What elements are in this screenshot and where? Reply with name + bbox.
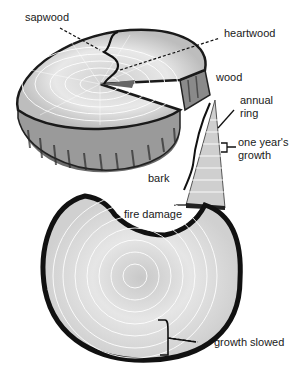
tree-ring-diagram: sapwood heartwood wood annual ring one y…	[0, 0, 303, 382]
label-heartwood: heartwood	[224, 27, 275, 39]
label-one-years-growth-line1: one year's	[238, 136, 289, 148]
log-cylinder	[17, 30, 210, 173]
label-annual-ring-line2: ring	[240, 107, 258, 119]
label-growth-slowed: growth slowed	[214, 336, 284, 348]
label-fire-damage: fire damage	[124, 208, 182, 220]
label-annual-ring-line1: annual	[240, 94, 273, 106]
label-wood: wood	[215, 71, 242, 83]
label-bark: bark	[148, 172, 170, 184]
label-sapwood: sapwood	[25, 11, 69, 23]
label-one-years-growth-line2: growth	[238, 149, 271, 161]
wedge-detail	[174, 100, 236, 210]
